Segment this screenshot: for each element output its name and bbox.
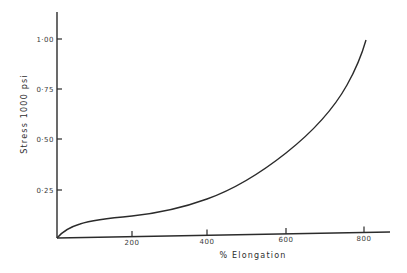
x-tick-label-200: 200: [125, 239, 140, 247]
x-tick-label-600: 600: [279, 236, 294, 244]
y-tick-label-1-00: 1·00: [36, 36, 54, 44]
x-axis: [57, 232, 390, 238]
x-tick-label-400: 400: [200, 238, 215, 246]
y-tick-label-0-50: 0·50: [36, 136, 54, 144]
stress-elongation-chart: 1·00 0·75 0·50 0·25 200 400 600 800 % El…: [0, 0, 407, 273]
y-axis-title: Stress 1000 psi: [20, 74, 29, 154]
x-axis-title: % Elongation: [219, 251, 286, 260]
y-tick-label-0-25: 0·25: [36, 187, 54, 195]
stress-curve: [57, 40, 366, 238]
x-tick-label-800: 800: [357, 235, 372, 243]
y-tick-label-0-75: 0·75: [36, 86, 54, 94]
y-ticks: [57, 39, 62, 190]
